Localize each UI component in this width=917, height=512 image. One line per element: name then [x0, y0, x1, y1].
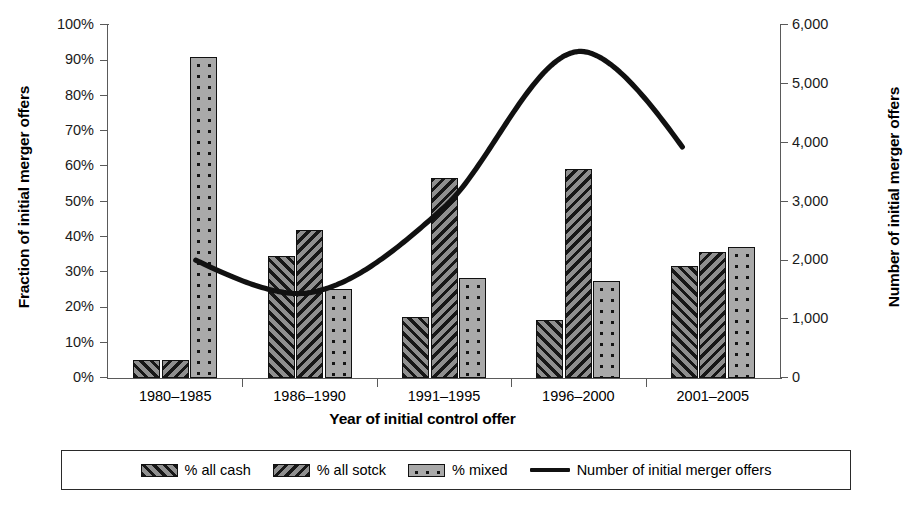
bar [565, 169, 592, 378]
y-axis-left-tick [100, 342, 108, 343]
legend-swatch [273, 464, 310, 477]
y-axis-right-tick-label: 6,000 [792, 17, 828, 32]
bar-group [536, 25, 620, 378]
y-axis-left-tick-label: 0% [32, 370, 94, 385]
y-axis-right-tick-label: 3,000 [792, 194, 828, 209]
bar [699, 252, 726, 378]
y-axis-right-tick-label: 5,000 [792, 76, 828, 91]
bar [728, 247, 755, 378]
x-axis-category-label: 2001–2005 [646, 388, 780, 404]
y-axis-left-tick [100, 60, 108, 61]
y-axis-left-tick-label: 70% [32, 123, 94, 138]
x-axis-separator-tick [511, 378, 512, 387]
y-axis-left-title: Fraction of initial merger offers [15, 27, 33, 367]
bar [133, 360, 160, 378]
bar [190, 57, 217, 378]
y-axis-right-title: Number of initial merger offers [885, 27, 903, 367]
y-axis-left-tick [100, 307, 108, 308]
y-axis-left-tick [100, 377, 108, 378]
legend-swatch [141, 464, 178, 477]
legend-item: % all cash [141, 462, 251, 478]
y-axis-left-tick-label: 40% [32, 229, 94, 244]
bar [431, 178, 458, 379]
legend-item: Number of initial merger offers [530, 462, 772, 478]
legend-label: Number of initial merger offers [577, 462, 772, 478]
bar [325, 289, 352, 378]
y-axis-left-tick-label: 50% [32, 194, 94, 209]
bar-group [402, 25, 486, 378]
y-axis-right-tick [780, 142, 788, 143]
y-axis-right-tick-label: 2,000 [792, 252, 828, 267]
bar [536, 320, 563, 378]
x-axis-category-label: 1991–1995 [377, 388, 511, 404]
bar [296, 230, 323, 378]
x-axis-category-label: 1996–2000 [511, 388, 645, 404]
legend-item: % mixed [408, 462, 508, 478]
bar [593, 281, 620, 378]
y-axis-right-tick [780, 24, 788, 25]
x-axis-separator-tick [377, 378, 378, 387]
y-axis-right-tick-label: 4,000 [792, 135, 828, 150]
x-axis-category-label: 1986–1990 [243, 388, 377, 404]
legend-swatch [408, 464, 445, 477]
legend-label: % all cash [185, 462, 251, 478]
bar-group [268, 25, 352, 378]
y-axis-left-tick-label: 20% [32, 299, 94, 314]
y-axis-right-tick [780, 83, 788, 84]
bar [402, 317, 429, 378]
y-axis-right-tick [780, 260, 788, 261]
y-axis-left-tick-label: 90% [32, 52, 94, 67]
y-axis-right-tick [780, 318, 788, 319]
bar [671, 266, 698, 378]
y-axis-left-tick [100, 24, 109, 25]
x-axis-separator-tick [646, 378, 647, 387]
y-axis-left-tick [100, 165, 108, 166]
chart-legend: % all cash% all sotck% mixedNumber of in… [61, 450, 851, 490]
y-axis-left-tick [100, 236, 108, 237]
bar-group [671, 25, 755, 378]
bar-group [133, 25, 217, 378]
x-axis-line [107, 378, 782, 379]
y-axis-right-tick-label: 1,000 [792, 311, 828, 326]
y-axis-left-tick-label: 60% [32, 158, 94, 173]
bar [162, 360, 189, 378]
legend-label: % mixed [452, 462, 508, 478]
y-axis-right-tick-label: 0 [792, 370, 800, 385]
y-axis-right-tick [780, 201, 788, 202]
y-axis-left-tick [100, 95, 108, 96]
x-axis-category-label: 1980–1985 [108, 388, 242, 404]
bar [459, 278, 486, 378]
x-axis-title: Year of initial control offer [0, 410, 845, 428]
bar [268, 256, 295, 378]
y-axis-left-tick-label: 80% [32, 88, 94, 103]
y-axis-left-tick [100, 201, 108, 202]
y-axis-right-tick [780, 377, 788, 378]
y-axis-left-tick [100, 271, 108, 272]
chart-figure: Fraction of initial merger offers Number… [0, 0, 917, 512]
x-axis-separator-tick [242, 378, 243, 387]
legend-line-swatch [530, 468, 570, 473]
y-axis-left-tick-label: 30% [32, 264, 94, 279]
legend-label: % all sotck [317, 462, 386, 478]
y-axis-left-tick-label: 100% [32, 17, 94, 32]
legend-item: % all sotck [273, 462, 386, 478]
y-axis-left-tick-label: 10% [32, 335, 94, 350]
y-axis-left-tick [100, 130, 108, 131]
